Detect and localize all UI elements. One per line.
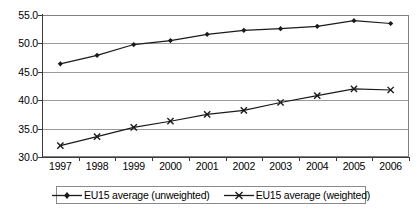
legend-label-weighted: EU15 average (weighted) — [256, 190, 370, 201]
data-point — [168, 38, 173, 43]
data-point — [388, 21, 393, 26]
data-point — [278, 26, 283, 31]
data-point — [205, 32, 210, 37]
legend-item-unweighted: EU15 average (unweighted) — [52, 190, 210, 201]
legend-label-unweighted: EU15 average (unweighted) — [84, 190, 210, 201]
data-point — [241, 28, 246, 33]
legend-item-weighted: EU15 average (weighted) — [224, 190, 370, 201]
series-1 — [58, 18, 394, 66]
line-chart: 55.050.045.040.035.030.0 199719981999200… — [0, 0, 419, 211]
x-marker-icon — [224, 190, 254, 201]
data-point — [58, 61, 63, 66]
series-layer — [0, 0, 419, 211]
data-point — [94, 53, 99, 58]
data-point — [131, 42, 136, 47]
diamond-marker-icon — [52, 190, 82, 201]
data-point — [351, 18, 356, 23]
series-line — [60, 21, 390, 64]
data-point — [315, 24, 320, 29]
series-2 — [57, 86, 394, 149]
series-line — [60, 89, 390, 146]
chart-legend: EU15 average (unweighted) EU15 average (… — [56, 186, 366, 204]
